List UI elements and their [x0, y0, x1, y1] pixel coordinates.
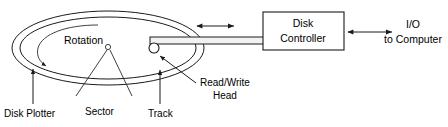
- read-write-head-leader-icon: [160, 56, 196, 83]
- read-write-head-icon: [149, 43, 159, 53]
- io-label-line2: to Computer: [384, 33, 442, 45]
- actuator-arm: [150, 37, 265, 44]
- sector-edge-left: [76, 50, 107, 96]
- sector-label: Sector: [85, 106, 115, 117]
- disk-hub-icon: [105, 44, 110, 49]
- read-write-head-label-line1: Read/Write: [200, 77, 250, 88]
- sector-edge-right: [110, 50, 132, 96]
- track-label: Track: [148, 108, 174, 119]
- io-label-line1: I/O: [406, 18, 420, 30]
- disk-diagram: Rotation Disk Plotter Sector Track Read/…: [0, 0, 448, 127]
- rotation-label: Rotation: [64, 34, 103, 46]
- disk-controller-label-line2: Controller: [280, 32, 326, 44]
- disk-controller-label-line1: Disk: [293, 17, 314, 29]
- diagram-canvas: Rotation Disk Plotter Sector Track Read/…: [0, 0, 448, 127]
- read-write-head-label-line2: Head: [213, 90, 237, 101]
- disk-platter-label: Disk Plotter: [4, 108, 56, 119]
